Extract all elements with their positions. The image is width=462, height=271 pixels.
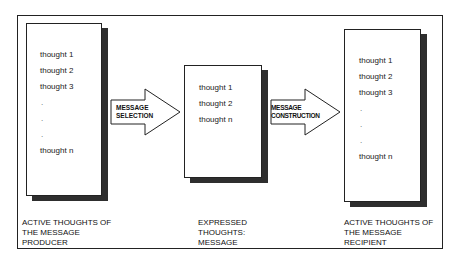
message-thought-1: thought 1 <box>199 83 232 92</box>
recipient-caption: ACTIVE THOUGHTS OF THE MESSAGE RECIPIENT <box>344 218 433 248</box>
recipient-ellipsis-2: . <box>360 120 362 129</box>
producer-thought-1: thought 1 <box>40 50 73 59</box>
recipient-thoughts-box: thought 1 thought 2 thought 3 . . . thou… <box>344 29 421 202</box>
message-caption: EXPRESSED THOUGHTS: MESSAGE <box>198 218 247 248</box>
recipient-thought-n: thought n <box>359 152 392 161</box>
message-thought-2: thought 2 <box>199 99 232 108</box>
recipient-thought-2: thought 2 <box>359 72 392 81</box>
producer-ellipsis-3: . <box>41 130 43 139</box>
expressed-message-box: thought 1 thought 2 thought n <box>184 65 262 178</box>
producer-ellipsis-1: . <box>41 98 43 107</box>
message-construction-label: MESSAGE CONSTRUCTION <box>271 104 320 120</box>
producer-ellipsis-2: . <box>41 114 43 123</box>
recipient-ellipsis-1: . <box>360 104 362 113</box>
producer-caption: ACTIVE THOUGHTS OF THE MESSAGE PRODUCER <box>22 218 111 248</box>
message-thought-n: thought n <box>199 115 232 124</box>
recipient-thought-1: thought 1 <box>359 56 392 65</box>
producer-thought-3: thought 3 <box>40 82 73 91</box>
producer-thought-n: thought n <box>40 146 73 155</box>
producer-thoughts-box: thought 1 thought 2 thought 3 . . . thou… <box>26 23 102 196</box>
producer-thought-2: thought 2 <box>40 66 73 75</box>
recipient-ellipsis-3: . <box>360 136 362 145</box>
message-selection-label: MESSAGE SELECTION <box>116 104 153 120</box>
recipient-thought-3: thought 3 <box>359 88 392 97</box>
